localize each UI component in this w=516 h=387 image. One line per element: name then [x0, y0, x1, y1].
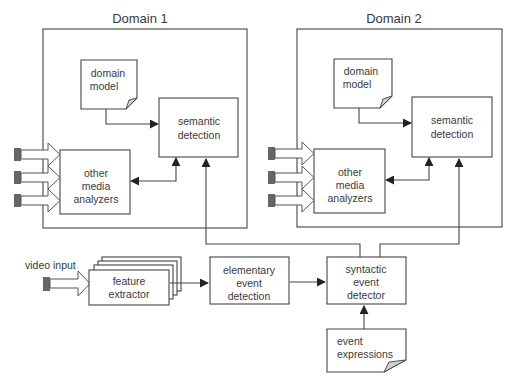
event-expressions: event expressions	[327, 329, 406, 372]
architecture-diagram: Domain 1 domain model semantic detection…	[0, 0, 516, 387]
media-input-arrow-icon	[43, 271, 90, 296]
video-input-label: video input	[25, 259, 76, 271]
media-input-arrow-icon	[14, 166, 60, 189]
svg-text:event: event	[353, 276, 379, 288]
domain-2-semantic-detection: semantic detection	[412, 97, 492, 157]
svg-text:detection: detection	[431, 128, 474, 140]
svg-text:detection: detection	[228, 290, 271, 302]
domain-1-title: Domain 1	[112, 11, 168, 26]
domain-2-other-media-analyzers: other media analyzers	[314, 149, 385, 213]
media-input-arrow-icon	[268, 166, 314, 189]
media-input-arrow-icon	[268, 189, 314, 212]
svg-text:analyzers: analyzers	[74, 193, 119, 205]
domain-2-domain-model: domain model	[334, 59, 392, 108]
svg-text:other: other	[84, 167, 108, 179]
media-input-arrow-icon	[14, 143, 60, 166]
domain-2-title: Domain 2	[366, 11, 422, 26]
media-input-arrow-icon	[268, 142, 314, 165]
feature-extractor: feature extractor	[89, 257, 181, 305]
svg-text:media: media	[82, 180, 111, 192]
svg-text:semantic: semantic	[178, 115, 220, 127]
svg-text:other: other	[338, 166, 362, 178]
svg-text:model: model	[343, 78, 372, 90]
elementary-event-detection: elementary event detection	[210, 257, 289, 304]
domain-2: Domain 2 domain model semantic detection…	[268, 11, 502, 227]
syntactic-event-detector: syntactic event detector	[327, 257, 406, 304]
svg-text:syntactic: syntactic	[346, 263, 387, 275]
svg-text:feature: feature	[113, 275, 146, 287]
svg-text:semantic: semantic	[431, 114, 473, 126]
svg-text:analyzers: analyzers	[328, 192, 373, 204]
svg-text:model: model	[90, 80, 119, 92]
svg-text:event: event	[337, 335, 363, 347]
domain-1-other-media-analyzers: other media analyzers	[60, 150, 130, 214]
media-input-arrow-icon	[14, 189, 60, 212]
svg-text:detection: detection	[178, 129, 221, 141]
svg-text:expressions: expressions	[337, 348, 393, 360]
domain-1-media-inputs	[14, 143, 60, 212]
domain-2-media-inputs	[268, 142, 314, 212]
svg-text:media: media	[336, 179, 365, 191]
domain-1-semantic-detection: semantic detection	[159, 98, 238, 157]
svg-text:domain: domain	[344, 65, 379, 77]
svg-text:extractor: extractor	[109, 288, 150, 300]
svg-text:detector: detector	[347, 289, 385, 301]
svg-text:event: event	[236, 277, 262, 289]
domain-1-domain-model: domain model	[81, 60, 137, 109]
svg-text:domain: domain	[91, 67, 126, 79]
domain-1: Domain 1 domain model semantic detection…	[14, 11, 247, 228]
svg-text:elementary: elementary	[223, 264, 276, 276]
